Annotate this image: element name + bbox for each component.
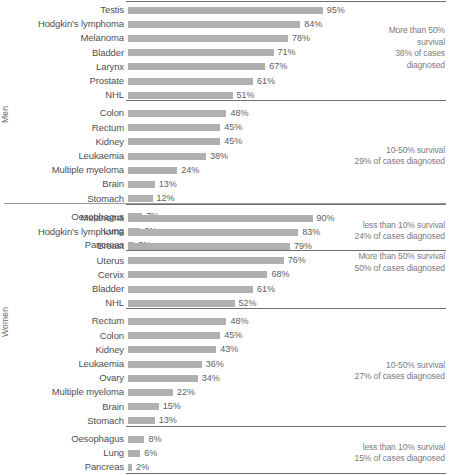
- chart-row: Prostate61%: [0, 74, 450, 88]
- chart-row: Rectum45%: [0, 121, 450, 135]
- band-annotation: 10-50% survival 27% of cases diagnosed: [295, 360, 445, 383]
- row-label: Pancreas: [0, 462, 128, 472]
- bar-value-label: 43%: [216, 345, 238, 354]
- bar-zone: 15%: [128, 400, 450, 414]
- bar: [128, 389, 173, 396]
- row-label: Bladder: [0, 48, 128, 58]
- row-label: Colon: [0, 108, 128, 118]
- bar-zone: 48%: [128, 106, 450, 120]
- chart-row: Bladder61%: [0, 282, 450, 296]
- bar-value-label: 22%: [173, 388, 195, 397]
- chart-row: Hodgkin's lymphoma83%: [0, 225, 450, 239]
- band-separator-rule: [126, 308, 446, 309]
- row-label: Larynx: [0, 62, 128, 72]
- band-separator-rule: [126, 473, 446, 474]
- bar-zone: 45%: [128, 329, 450, 343]
- bar: [128, 138, 220, 145]
- chart-row: Kidney43%: [0, 343, 450, 357]
- bar: [128, 229, 298, 236]
- row-label: Melanoma: [0, 213, 128, 223]
- bar: [128, 361, 202, 368]
- bar-value-label: 8%: [144, 435, 161, 444]
- bar: [128, 7, 323, 14]
- chart-row: Brain15%: [0, 400, 450, 414]
- bar: [128, 124, 220, 131]
- bar-value-label: 61%: [253, 77, 275, 86]
- bar-value-label: 13%: [155, 180, 177, 189]
- bar: [128, 346, 216, 353]
- bar: [128, 92, 233, 99]
- row-label: Leukaemia: [0, 151, 128, 161]
- band-annotation: More than 50% survival 38% of cases diag…: [349, 25, 445, 71]
- bar-value-label: 71%: [274, 48, 296, 57]
- bar-zone: 95%: [128, 3, 450, 17]
- bar: [128, 181, 155, 188]
- bar-value-label: 45%: [220, 123, 242, 132]
- bar-zone: 45%: [128, 121, 450, 135]
- row-label: Testis: [0, 5, 128, 15]
- row-label: Rectum: [0, 316, 128, 326]
- chart-panel-women: Melanoma90%Hodgkin's lymphoma83%Breast79…: [0, 207, 450, 419]
- bar: [128, 63, 265, 70]
- chart-row: Colon48%: [0, 106, 450, 120]
- bar: [128, 153, 206, 160]
- chart-top-rule: [126, 1, 446, 2]
- chart-row: Brain13%: [0, 177, 450, 191]
- row-label: Kidney: [0, 345, 128, 355]
- bar-zone: 61%: [128, 74, 450, 88]
- row-label: Cervix: [0, 270, 128, 280]
- bar: [128, 215, 313, 222]
- bar-value-label: 52%: [235, 299, 257, 308]
- bar: [128, 450, 140, 457]
- bar: [128, 375, 198, 382]
- row-label: NHL: [0, 90, 128, 100]
- chart-row: Melanoma90%: [0, 211, 450, 225]
- row-label: Uterus: [0, 256, 128, 266]
- bar-zone: 13%: [128, 177, 450, 191]
- row-label: Melanoma: [0, 33, 128, 43]
- group-divider-rule: [4, 203, 446, 204]
- row-label: Breast: [0, 241, 128, 251]
- bar-value-label: 24%: [177, 166, 199, 175]
- bar-zone: 90%: [128, 211, 450, 225]
- bar: [128, 417, 155, 424]
- bar: [128, 300, 235, 307]
- chart-row: Rectum48%: [0, 314, 450, 328]
- row-label: Stomach: [0, 416, 128, 426]
- bar-zone: 48%: [128, 314, 450, 328]
- bar-value-label: 79%: [290, 242, 312, 251]
- band-separator-rule: [126, 100, 446, 101]
- chart-row: Testis95%: [0, 3, 450, 17]
- row-label: Hodgkin's lymphoma: [0, 19, 128, 29]
- row-label: Lung: [0, 448, 128, 458]
- bar: [128, 286, 253, 293]
- chart-row: Multiple myeloma22%: [0, 385, 450, 399]
- bar: [128, 403, 159, 410]
- bar-value-label: 13%: [155, 416, 177, 425]
- bar-zone: 83%: [128, 225, 450, 239]
- bar: [128, 21, 300, 28]
- bar-value-label: 48%: [226, 109, 248, 118]
- chart-row: Colon45%: [0, 329, 450, 343]
- row-label: Leukaemia: [0, 359, 128, 369]
- row-label: Ovary: [0, 373, 128, 383]
- band-annotation: More than 50% survival 50% of cases diag…: [295, 251, 445, 274]
- bar-value-label: 83%: [298, 228, 320, 237]
- bar: [128, 195, 153, 202]
- bar-value-label: 38%: [206, 152, 228, 161]
- bar-value-label: 15%: [159, 402, 181, 411]
- bar-value-label: 84%: [300, 20, 322, 29]
- bar: [128, 318, 226, 325]
- bar: [128, 332, 220, 339]
- bar-value-label: 45%: [220, 137, 242, 146]
- band-separator-rule: [126, 426, 446, 427]
- bar-value-label: 68%: [267, 270, 289, 279]
- bar-value-label: 95%: [323, 6, 345, 15]
- row-label: Prostate: [0, 76, 128, 86]
- row-label: Rectum: [0, 123, 128, 133]
- bar: [128, 271, 267, 278]
- bar-value-label: 67%: [265, 62, 287, 71]
- row-label: Hodgkin's lymphoma: [0, 227, 128, 237]
- row-label: NHL: [0, 298, 128, 308]
